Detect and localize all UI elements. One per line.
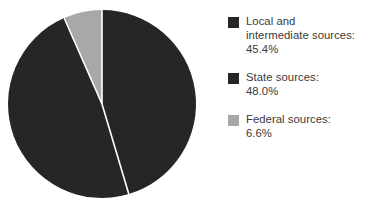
legend-swatch-federal-sources <box>228 115 239 126</box>
legend-swatch-local-and-intermediate-sources <box>228 17 239 28</box>
legend-item-federal-sources: Federal sources: 6.6% <box>228 112 376 140</box>
legend-item-state-sources: State sources: 48.0% <box>228 70 376 98</box>
legend-label-state-sources: State sources: 48.0% <box>246 70 319 98</box>
pie-chart-plot-area <box>0 0 212 212</box>
legend-label-federal-sources: Federal sources: 6.6% <box>246 112 331 140</box>
chart-legend: Local and intermediate sources: 45.4% St… <box>228 14 376 154</box>
legend-swatch-state-sources <box>228 73 239 84</box>
legend-item-local-and-intermediate-sources: Local and intermediate sources: 45.4% <box>228 14 376 56</box>
legend-label-local-and-intermediate-sources: Local and intermediate sources: 45.4% <box>246 14 355 56</box>
pie-chart-figure: Local and intermediate sources: 45.4% St… <box>0 0 376 212</box>
pie-chart-svg <box>0 0 212 212</box>
